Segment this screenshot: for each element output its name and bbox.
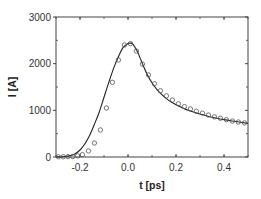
data-point xyxy=(110,80,114,84)
data-point xyxy=(86,149,90,153)
data-point xyxy=(80,152,84,156)
y-tick-label: 3000 xyxy=(29,12,52,23)
data-point xyxy=(92,141,96,145)
y-axis-ticks: 0100020003000 xyxy=(29,12,248,163)
y-tick-label: 0 xyxy=(45,152,51,163)
data-point xyxy=(104,106,108,110)
y-tick-label: 1000 xyxy=(29,105,52,116)
data-point xyxy=(170,98,174,102)
x-tick-label: 0.4 xyxy=(217,162,231,173)
data-point xyxy=(182,104,186,108)
data-point xyxy=(164,94,168,98)
plot-frame xyxy=(56,17,248,157)
x-axis-label: t [ps] xyxy=(139,179,165,191)
plot-series xyxy=(56,41,248,159)
x-tick-label: -0.2 xyxy=(71,162,89,173)
data-point xyxy=(158,89,162,93)
y-axis-label: I [A] xyxy=(6,77,18,97)
chart: -0.20.00.20.4 0100020003000 t [ps] I [A] xyxy=(0,0,261,199)
data-point xyxy=(98,128,102,132)
x-axis-ticks: -0.20.00.20.4 xyxy=(56,17,248,173)
data-point xyxy=(188,107,192,111)
y-tick-label: 2000 xyxy=(29,58,52,69)
x-tick-label: 0.2 xyxy=(169,162,183,173)
x-tick-label: 0.0 xyxy=(121,162,135,173)
fit-curve xyxy=(56,43,248,157)
